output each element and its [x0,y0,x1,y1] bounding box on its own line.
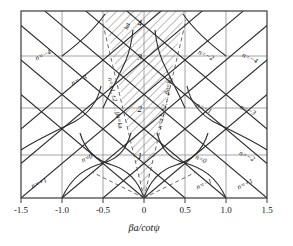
x-tick-neg0p5: -0.5 [96,205,111,215]
mode-label-n-minus-2-far: n=−2 [238,149,257,164]
y-tick-2: 2 [138,104,143,114]
figure-panel: 1 2 3 4 -1.5 -1.0 -0.5 0 0.5 1.0 1.5 βa/… [0,0,293,246]
x-axis-title: βa/cotψ [127,222,160,233]
mode-label-n-minus-4-right: n=−4 [241,51,260,66]
mode-chart-plot: 1 2 3 4 -1.5 -1.0 -0.5 0 0.5 1.0 1.5 βa/… [0,0,293,246]
y-tick-4: 4 [138,18,143,28]
x-tick-1p5: 1.5 [261,205,273,215]
x-tick-labels: -1.5 -1.0 -0.5 0 0.5 1.0 1.5 [14,205,273,215]
mode-label-n-plus-1-left: n=+1 [30,176,48,190]
y-tick-1: 1 [138,151,143,161]
x-tick-zero: 0 [142,205,147,215]
mode-label-n-plus-1-bot: n=+1 [236,177,254,191]
mode-label-n-minus-1-bot: n=−1 [195,177,213,191]
x-tick-1p0: 1.0 [220,205,232,215]
y-tick-3: 3 [137,52,143,62]
x-tick-neg1p5: -1.5 [14,205,29,215]
grid-lines [21,11,267,198]
x-tick-marks [21,198,267,203]
mode-label-n-minus-2-right: n=−2 [197,48,216,63]
x-tick-0p5: 0.5 [179,205,191,215]
x-tick-neg1p0: -1.0 [55,205,70,215]
